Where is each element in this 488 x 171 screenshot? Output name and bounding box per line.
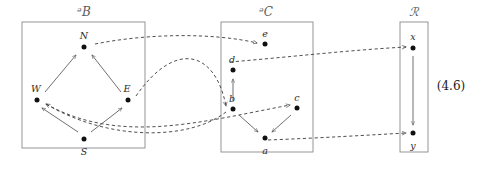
solid-edges-layer (42, 55, 413, 132)
node-label-S: S (81, 146, 88, 157)
node-dot-S (82, 137, 87, 142)
node-label-a: a (262, 145, 268, 156)
node-dot-d (231, 68, 236, 73)
node-dot-a (263, 136, 268, 141)
node-label-e: e (262, 28, 268, 39)
dashed-edge-a-to-y (268, 133, 406, 140)
equation-number: (4.6) (437, 79, 465, 93)
node-label-c: c (294, 92, 299, 103)
node-label-d: d (229, 54, 235, 65)
dashed-edges-layer (46, 36, 406, 140)
node-dot-E (126, 98, 131, 103)
solid-edge-c-to-a (272, 115, 291, 132)
node-label-W: W (31, 83, 41, 94)
node-dot-y (411, 131, 416, 136)
set-label-p: ᵊB (77, 5, 91, 19)
set-label-r: ℛ (409, 5, 419, 19)
solid-edge-E-to-N (92, 55, 121, 92)
node-label-y: y (410, 140, 415, 151)
node-dot-b (231, 107, 236, 112)
set-label-q: ᵊC (259, 5, 273, 19)
solid-edge-S-to-W (42, 108, 78, 132)
solid-edge-W-to-N (45, 55, 76, 92)
node-dot-W (35, 98, 40, 103)
dashed-edge-e-to-x (230, 47, 406, 62)
figure-commutative-diagram: ᵊBᵊCℛNWESedbcaxy (4.6) (0, 0, 488, 171)
dashed-edge-W-to-c (46, 104, 290, 127)
solid-edge-b-to-a (239, 115, 258, 132)
dashed-edge-N-to-e (95, 36, 257, 44)
node-label-N: N (80, 30, 88, 41)
node-dot-x (411, 46, 416, 51)
boxes-layer (22, 22, 428, 152)
node-dot-e (263, 42, 268, 47)
dashed-edge-E-to-b (136, 59, 226, 106)
node-label-x: x (410, 31, 415, 42)
node-label-E: E (124, 83, 131, 94)
solid-edge-S-to-E (91, 108, 122, 132)
node-dot-N (82, 45, 87, 50)
node-dot-c (295, 106, 300, 111)
node-label-b: b (229, 93, 235, 104)
